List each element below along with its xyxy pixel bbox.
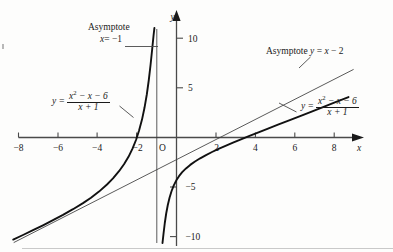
function-left-num-exp: 2 xyxy=(73,89,76,96)
vertical-asymptote-word: Asymptote xyxy=(88,22,130,32)
vertical-asymptote-eq-rhs: = −1 xyxy=(104,34,122,44)
x-tick-label--4: −4 xyxy=(92,143,102,153)
function-left-leader xyxy=(120,106,134,118)
x-tick-label--6: −6 xyxy=(53,143,63,153)
x-axis-name: x xyxy=(356,143,362,153)
scan-artifact-speck xyxy=(2,44,4,49)
x-tick-label-6: 6 xyxy=(292,143,297,153)
x-tick-label-8: 8 xyxy=(332,143,337,153)
function-left-lhs: y = xyxy=(52,97,65,107)
function-right-num-rest: − x − 6 xyxy=(328,96,357,106)
function-right-den-text: x + 1 xyxy=(327,107,347,117)
function-left-den-text: x + 1 xyxy=(78,102,98,112)
slant-asymptote-word: Asymptote xyxy=(266,46,308,56)
x-tick-label--8: −8 xyxy=(13,143,23,153)
function-left-num-rest: − x − 6 xyxy=(79,91,108,101)
function-left-fraction: x2 − x − 6 x + 1 xyxy=(67,92,110,113)
x-axis-arrowhead xyxy=(352,133,364,141)
function-right-leader xyxy=(279,103,297,112)
y-axis xyxy=(172,10,180,246)
origin-label: O xyxy=(159,143,166,153)
function-right-denominator: x + 1 xyxy=(316,108,359,118)
y-tick-label-10: 10 xyxy=(188,34,198,44)
y-axis-name: y xyxy=(169,12,175,22)
slant-asymptote-eq-x: x xyxy=(324,46,328,56)
function-label-left: y = x2 − x − 6 x + 1 xyxy=(52,92,110,113)
function-right-fraction: x2 − x − 6 x + 1 xyxy=(316,97,359,118)
rational-function-graph: −8 −6 −4 −2 2 4 6 8 10 5 −5 −10 O y x xyxy=(0,0,393,252)
slant-asymptote-annotation: Asymptote y = x − 2 xyxy=(266,46,343,56)
vertical-asymptote-annotation: Asymptote xyxy=(88,22,130,32)
function-right-num-exp: 2 xyxy=(322,94,325,101)
function-left-denominator: x + 1 xyxy=(67,103,110,113)
y-tick-label--5: −5 xyxy=(186,182,196,192)
function-right-lhs: y = xyxy=(301,102,314,112)
slant-asymptote-eq-y: y xyxy=(310,46,314,56)
x-tick-label-4: 4 xyxy=(253,143,258,153)
slant-asymptote-eq-tail: − 2 xyxy=(331,46,343,56)
function-label-right: y = x2 − x − 6 x + 1 xyxy=(301,97,359,118)
slant-asymptote-leader xyxy=(299,57,311,68)
x-axis xyxy=(19,133,365,141)
scan-artifact-rule xyxy=(22,248,393,249)
vertical-asymptote-equation: x= −1 xyxy=(100,34,122,44)
curve-left-branch xyxy=(13,28,154,240)
y-tick-label-5: 5 xyxy=(188,83,193,93)
y-tick-label--10: −10 xyxy=(186,232,201,242)
slant-asymptote-eq-equals: = xyxy=(317,46,322,56)
